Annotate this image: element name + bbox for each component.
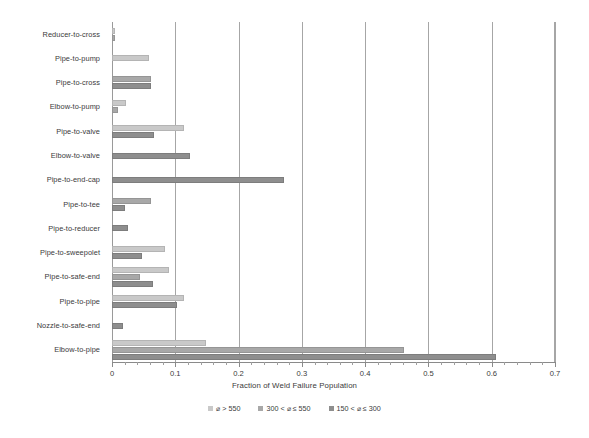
bar [112, 55, 149, 61]
bar [112, 274, 140, 280]
bar [112, 76, 151, 82]
bar-group [112, 265, 555, 289]
x-tick-minor [213, 362, 214, 365]
bar [112, 28, 115, 34]
x-tick-minor [327, 362, 328, 365]
x-tick-label-0.6: 0.6 [486, 369, 497, 378]
bar [112, 100, 126, 106]
x-tick-major [239, 362, 240, 367]
bar-group [112, 313, 555, 337]
bar [112, 267, 169, 273]
x-tick-label-0.2: 0.2 [233, 369, 244, 378]
x-tick-minor [188, 362, 189, 365]
bar [112, 253, 142, 259]
y-axis-label-pipe-to-sweepolet: Pipe-to-sweepolet [0, 241, 106, 265]
y-axis-label-pipe-to-cross: Pipe-to-cross [0, 71, 106, 95]
x-tick-minor [403, 362, 404, 365]
legend: ⌀ > 550 300 < ⌀ ≤ 550 150 < ⌀ ≤ 300 [0, 404, 589, 413]
y-axis-label-pipe-to-safe-end: Pipe-to-safe-end [0, 265, 106, 289]
bar [112, 198, 151, 204]
bar [112, 125, 184, 131]
bar [112, 132, 154, 138]
plot-area [112, 22, 555, 362]
y-axis-label-pipe-to-tee: Pipe-to-tee [0, 192, 106, 216]
bar-group [112, 95, 555, 119]
x-tick-minor [264, 362, 265, 365]
y-axis-label-nozzle-to-safe-end: Nozzle-to-safe-end [0, 313, 106, 337]
bar-group [112, 338, 555, 362]
y-axis-label-reducer-to-cross: Reducer-to-cross [0, 22, 106, 46]
bar [112, 83, 151, 89]
bar-group [112, 241, 555, 265]
y-axis-label-elbow-to-valve: Elbow-to-valve [0, 143, 106, 167]
y-axis-category-labels: Reducer-to-cross Pipe-to-pump Pipe-to-cr… [0, 22, 106, 362]
x-tick-major [365, 362, 366, 367]
y-axis-label-pipe-to-pipe: Pipe-to-pipe [0, 289, 106, 313]
x-tick-minor [340, 362, 341, 365]
x-tick-label-0.7: 0.7 [550, 369, 561, 378]
legend-item-2: 150 < ⌀ ≤ 300 [329, 404, 381, 413]
x-tick-minor [542, 362, 543, 365]
bar [112, 295, 184, 301]
bar-group [112, 119, 555, 143]
x-tick-minor [315, 362, 316, 365]
x-axis-title: Fraction of Weld Failure Population [0, 381, 589, 390]
legend-label-0: ⌀ > 550 [216, 404, 240, 413]
x-tick-major [302, 362, 303, 367]
y-axis-label-elbow-to-pump: Elbow-to-pump [0, 95, 106, 119]
bar-group [112, 289, 555, 313]
bar [112, 354, 496, 360]
legend-swatch-icon-1 [258, 406, 263, 411]
bar [112, 153, 190, 159]
bar [112, 281, 153, 287]
legend-item-0: ⌀ > 550 [208, 404, 240, 413]
x-tick-label-0.4: 0.4 [360, 369, 371, 378]
x-tick-minor [289, 362, 290, 365]
x-tick-minor [416, 362, 417, 365]
legend-label-2: 150 < ⌀ ≤ 300 [337, 404, 381, 413]
x-tick-major [428, 362, 429, 367]
bar-group [112, 46, 555, 70]
x-tick-minor [226, 362, 227, 365]
legend-label-1: 300 < ⌀ ≤ 550 [266, 404, 310, 413]
bar [112, 205, 125, 211]
y-axis-label-pipe-to-pump: Pipe-to-pump [0, 46, 106, 70]
x-tick-minor [150, 362, 151, 365]
x-tick-minor [466, 362, 467, 365]
x-tick-major [112, 362, 113, 367]
bar [112, 177, 284, 183]
x-tick-minor [390, 362, 391, 365]
bar [112, 340, 206, 346]
legend-item-1: 300 < ⌀ ≤ 550 [258, 404, 310, 413]
x-tick-minor [530, 362, 531, 365]
x-tick-minor [454, 362, 455, 365]
bar-rows [112, 22, 555, 362]
x-tick-label-0.1: 0.1 [170, 369, 181, 378]
bar-group [112, 168, 555, 192]
bar [112, 35, 115, 41]
bar [112, 347, 404, 353]
x-tick-minor [137, 362, 138, 365]
bar [112, 246, 165, 252]
bar-group [112, 192, 555, 216]
y-axis-label-pipe-to-reducer: Pipe-to-reducer [0, 216, 106, 240]
x-tick-minor [201, 362, 202, 365]
bar [112, 107, 118, 113]
bar-group [112, 22, 555, 46]
bar-group [112, 71, 555, 95]
x-tick-label-0.3: 0.3 [297, 369, 308, 378]
x-tick-label-0.5: 0.5 [423, 369, 434, 378]
weld-failure-bar-chart: Reducer-to-cross Pipe-to-pump Pipe-to-cr… [0, 0, 589, 438]
y-axis-label-pipe-to-end-cap: Pipe-to-end-cap [0, 168, 106, 192]
x-tick-minor [251, 362, 252, 365]
legend-swatch-icon-0 [208, 406, 213, 411]
x-tick-major [175, 362, 176, 367]
gridline-0.7 [555, 22, 556, 362]
legend-swatch-icon-2 [329, 406, 334, 411]
x-tick-minor [517, 362, 518, 365]
x-tick-minor [479, 362, 480, 365]
x-tick-major [492, 362, 493, 367]
y-axis-label-pipe-to-valve: Pipe-to-valve [0, 119, 106, 143]
x-tick-label-0: 0 [110, 369, 114, 378]
x-tick-minor [378, 362, 379, 365]
